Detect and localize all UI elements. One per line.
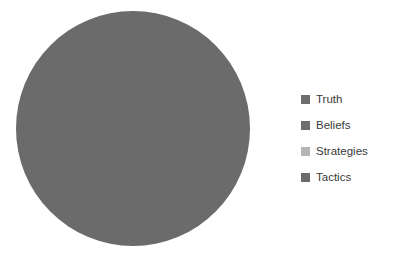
legend-item-truth[interactable]: Truth: [301, 86, 401, 112]
legend-swatch-icon: [301, 173, 310, 182]
legend-item-label: Truth: [316, 93, 342, 105]
pie-chart-figure: Truth Beliefs Strategies Tactics: [0, 0, 410, 257]
legend-item-strategies[interactable]: Strategies: [301, 138, 401, 164]
chart-legend: Truth Beliefs Strategies Tactics: [301, 86, 401, 190]
pie-chart-plot-area: [16, 11, 250, 246]
legend-swatch-icon: [301, 147, 310, 156]
pie-slice[interactable]: [16, 11, 250, 246]
legend-item-beliefs[interactable]: Beliefs: [301, 112, 401, 138]
legend-item-label: Strategies: [316, 145, 368, 157]
legend-item-label: Beliefs: [316, 119, 351, 131]
legend-item-label: Tactics: [316, 171, 351, 183]
pie-chart-svg: [16, 11, 250, 246]
legend-swatch-icon: [301, 121, 310, 130]
pie-slice-group: [16, 11, 250, 246]
legend-swatch-icon: [301, 95, 310, 104]
legend-item-tactics[interactable]: Tactics: [301, 164, 401, 190]
